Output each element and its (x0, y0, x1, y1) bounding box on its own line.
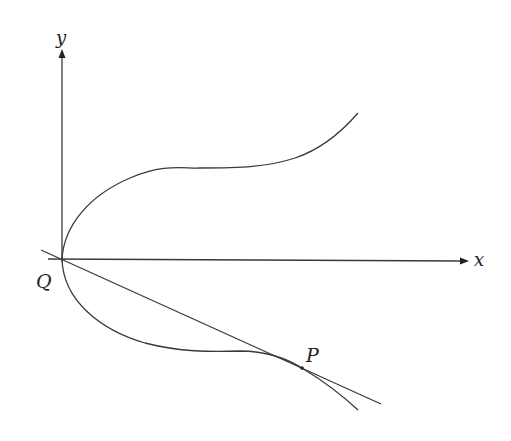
y-axis (59, 49, 66, 262)
x-axis-arrowhead-icon (460, 258, 469, 265)
point-p-label: P (305, 344, 320, 366)
point-q-label: Q (36, 270, 52, 292)
tangent-line (41, 250, 381, 404)
y-axis-arrowhead-icon (59, 49, 66, 58)
point-p-marker (300, 366, 304, 370)
upper-curve (62, 113, 358, 259)
x-axis (48, 258, 469, 265)
lower-curve (62, 259, 358, 410)
x-axis-label: x (474, 249, 484, 270)
y-axis-label: y (55, 27, 67, 48)
diagram-canvas: y x Q P (0, 0, 511, 441)
